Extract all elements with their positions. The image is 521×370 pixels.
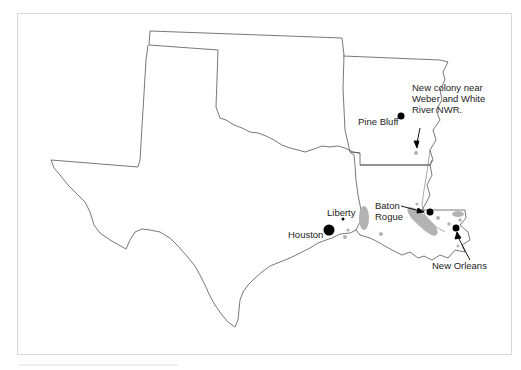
houston-label: Houston <box>288 229 323 240</box>
new-mexico-border <box>138 45 148 167</box>
state-outline-map <box>0 0 521 370</box>
pine-bluff-label: Pine Bluff <box>358 116 399 127</box>
houston-marker <box>324 225 335 236</box>
new-orleans-label: New Orleans <box>432 260 487 271</box>
new-colony-marker <box>414 151 418 155</box>
colony-area-sabine <box>359 206 369 230</box>
faint-caption <box>18 364 178 366</box>
oklahoma-border <box>149 31 360 153</box>
colony-areas <box>343 151 464 248</box>
new-orleans-marker <box>453 225 460 232</box>
colony-area-east <box>452 211 464 217</box>
new-orleans-arrow <box>458 237 470 260</box>
new-colony-label: New colony near Weber and White River NW… <box>412 82 485 115</box>
texas-west-line <box>51 160 138 167</box>
pointer-arrows <box>401 128 470 260</box>
baton-rouge-label: Baton Rogue <box>375 200 403 222</box>
liberty-label: Liberty <box>327 207 356 218</box>
baton-rouge-marker <box>427 209 434 216</box>
